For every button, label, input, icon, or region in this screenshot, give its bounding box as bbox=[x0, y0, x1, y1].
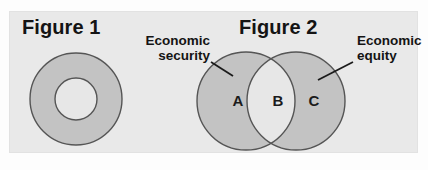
venn-region-label-b: B bbox=[268, 92, 288, 109]
callout-economic-security-line1: Economic bbox=[126, 34, 210, 49]
venn-region-label-a: A bbox=[228, 92, 248, 109]
venn-region-label-c: C bbox=[304, 92, 324, 109]
callout-economic-security-line2: security bbox=[126, 49, 210, 64]
figure-illustration: Figure 1 Figure 2 Economic security Econ… bbox=[0, 0, 428, 170]
figure-2-title: Figure 2 bbox=[239, 16, 318, 39]
callout-economic-equity-line2: equity bbox=[357, 49, 428, 64]
callout-economic-equity: Economic equity bbox=[357, 34, 428, 63]
figure-1-title: Figure 1 bbox=[22, 16, 101, 39]
callout-economic-equity-line1: Economic bbox=[357, 34, 428, 49]
callout-economic-security: Economic security bbox=[126, 34, 210, 63]
